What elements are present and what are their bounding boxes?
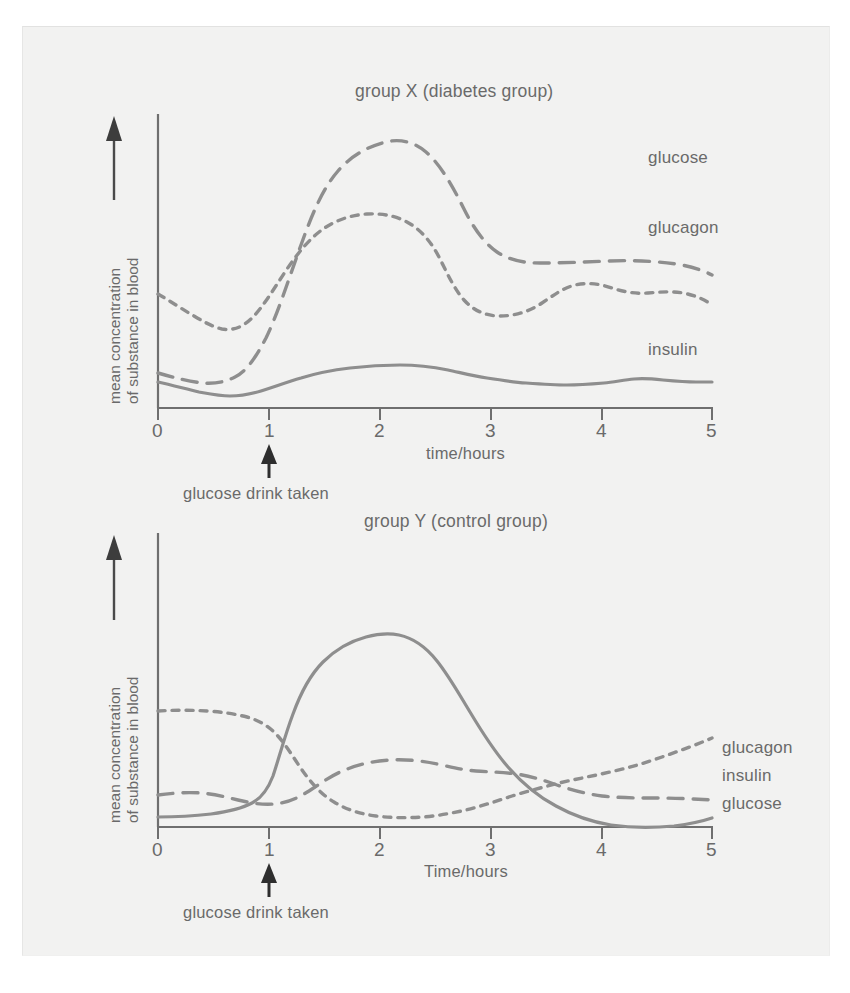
y-axis-label-line2-group-x: of substance in blood: [124, 258, 142, 405]
y-axis-label-group-x: mean concentration of substance in blood: [106, 258, 142, 405]
series-label-glucose-group-x: glucose: [648, 148, 708, 168]
x-tick-label-3-group-y: 3: [485, 839, 496, 861]
x-tick-label-4-group-y: 4: [596, 839, 607, 861]
x-tick-label-2-group-y: 2: [374, 839, 385, 861]
x-axis-label-group-x: time/hours: [426, 444, 505, 463]
scanned-page-panel: [22, 26, 830, 956]
x-tick-label-0-group-x: 0: [152, 420, 163, 442]
x-tick-label-1-group-x: 1: [264, 420, 275, 442]
chart-title-group-x: group X (diabetes group): [355, 81, 553, 102]
x-tick-label-3-group-x: 3: [485, 420, 496, 442]
series-label-glucagon-group-x: glucagon: [648, 218, 719, 238]
x-axis-label-group-y: Time/hours: [424, 862, 508, 881]
series-label-glucagon-group-y: glucagon: [722, 738, 793, 758]
annotation-glucose-drink-group-x: glucose drink taken: [183, 484, 329, 503]
annotation-glucose-drink-group-y: glucose drink taken: [183, 903, 329, 922]
x-tick-label-2-group-x: 2: [374, 420, 385, 442]
x-tick-label-5-group-x: 5: [706, 420, 717, 442]
chart-title-group-y: group Y (control group): [364, 511, 548, 532]
y-axis-label-line1-group-x: mean concentration: [106, 258, 124, 405]
x-tick-label-5-group-y: 5: [706, 839, 717, 861]
y-axis-label-line2-group-y: of substance in blood: [124, 677, 142, 824]
x-tick-label-1-group-y: 1: [264, 839, 275, 861]
y-axis-label-line1-group-y: mean concentration: [106, 677, 124, 824]
x-tick-label-0-group-y: 0: [152, 839, 163, 861]
y-axis-label-group-y: mean concentration of substance in blood: [106, 677, 142, 824]
figure-root: group X (diabetes group) mean concentrat…: [0, 0, 850, 993]
series-label-insulin-group-y: insulin: [722, 766, 772, 786]
x-tick-label-4-group-x: 4: [596, 420, 607, 442]
series-label-glucose-group-y: glucose: [722, 794, 782, 814]
series-label-insulin-group-x: insulin: [648, 340, 698, 360]
